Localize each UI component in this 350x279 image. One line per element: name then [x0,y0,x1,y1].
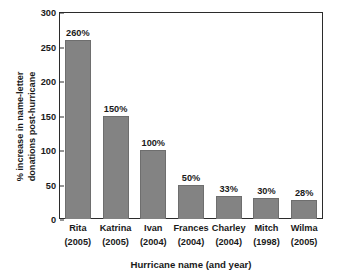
y-axis-title: % increase in name-letter donations post… [15,22,38,232]
x-tick-year: (2005) [100,236,132,250]
bar-chart: % increase in name-letter donations post… [0,0,350,279]
x-tick-category: Wilma [291,222,318,236]
x-tick-label: Charley(2004) [212,222,246,249]
x-tick-label: Frances(2004) [173,222,208,249]
x-tick-year: (2004) [173,236,208,250]
x-tick-category: Rita [65,222,92,236]
x-tick-year: (1998) [253,236,280,250]
x-tick-label: Rita(2005) [65,222,92,249]
y-tick-label: 200 [16,77,56,87]
y-tick-mark [60,220,64,221]
y-tick-mark [60,116,64,117]
y-tick-mark [60,151,64,152]
x-tick-label: Mitch(1998) [253,222,280,249]
x-tick-year: (2004) [140,236,167,250]
x-tick-category: Ivan [140,222,167,236]
x-tick-year: (2004) [212,236,246,250]
x-tick-category: Katrina [100,222,132,236]
y-tick-label: 150 [16,112,56,122]
y-tick-label: 0 [16,215,56,225]
x-tick-category: Mitch [253,222,280,236]
x-tick-category: Frances [173,222,208,236]
y-tick-label: 300 [16,8,56,18]
y-tick-mark [60,13,64,14]
y-tick-label: 100 [16,146,56,156]
y-tick-mark [60,185,64,186]
x-tick-year: (2005) [65,236,92,250]
x-axis-title: Hurricane name (and year) [59,259,323,270]
x-tick-category: Charley [212,222,246,236]
x-tick-label: Ivan(2004) [140,222,167,249]
x-tick-year: (2005) [291,236,318,250]
x-tick-label: Wilma(2005) [291,222,318,249]
y-tick-label: 50 [16,181,56,191]
y-tick-mark [60,47,64,48]
x-tick-label: Katrina(2005) [100,222,132,249]
x-axis-ticks: Rita(2005)Katrina(2005)Ivan(2004)Frances… [59,222,323,256]
y-tick-mark [60,82,64,83]
plot-area: 050100150200250300 [59,12,323,219]
y-tick-label: 250 [16,43,56,53]
